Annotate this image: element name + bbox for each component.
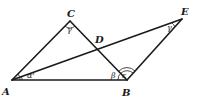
label-angle-e: γ [167,23,172,32]
label-angle-c: γ [67,25,72,34]
label-point-d: D [94,34,104,45]
label-point-e: E [180,6,189,17]
label-angle-a: α' [27,71,35,80]
label-point-c: C [67,8,75,19]
geometry-diagram: A B C D E α' γ β ε γ [0,0,202,104]
segment-cb [70,21,127,80]
segment-ac [12,21,70,80]
segment-ae [12,19,182,80]
label-angle-b-right: ε [122,71,126,80]
label-point-b: B [121,87,130,98]
label-angle-b-left: β [110,71,116,80]
label-point-a: A [1,86,10,97]
angle-arc-e [172,23,175,27]
